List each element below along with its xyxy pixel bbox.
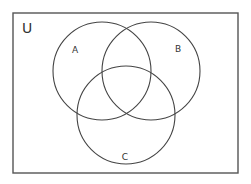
universe-label: U — [22, 20, 32, 36]
set-b-label: B — [175, 44, 181, 54]
set-c-label: C — [122, 152, 128, 162]
venn-diagram: U A B C — [0, 0, 251, 184]
universe-rectangle — [13, 13, 238, 173]
set-a-label: A — [72, 45, 79, 55]
set-c-circle — [77, 66, 175, 164]
